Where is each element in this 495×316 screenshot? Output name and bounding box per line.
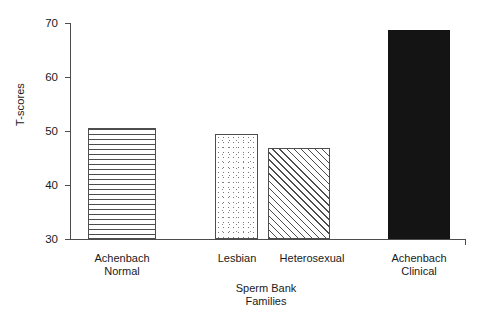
bar-achenbach-clinical [388,30,450,239]
y-axis-line [70,23,71,240]
y-tick-label-60: 60 [32,72,58,84]
x-category-label-achenbach-clinical: AchenbachClinical [371,252,467,278]
bar-heterosexual [268,148,330,239]
y-axis-title: T-scores [14,36,26,126]
y-tick-label-40: 40 [32,180,58,192]
x-category-label-achenbach-normal: AchenbachNormal [74,252,170,278]
x-category-label-line2: Clinical [401,265,436,277]
x-category-label-line1: Lesbian [218,252,257,264]
bar-achenbach-normal [88,128,156,239]
x-category-label-line1: Heterosexual [280,252,345,264]
x-category-label-heterosexual: Heterosexual [262,252,362,265]
bar-lesbian [215,134,258,239]
x-category-label-line1: Achenbach [94,252,149,264]
y-tick-mark-60 [65,77,70,78]
x-category-label-line2: Normal [104,265,139,277]
y-tick-label-30: 30 [32,234,58,246]
x-axis-end-cap [465,239,466,245]
bar-chart-figure: T-scores 70 60 50 40 30 AchenbachNormal … [0,0,495,316]
x-axis-title-line2: Families [246,295,287,307]
x-axis-title-line1: Sperm Bank [236,282,297,294]
y-tick-label-50: 50 [32,126,58,138]
y-tick-mark-50 [65,131,70,132]
y-tick-label-70: 70 [32,18,58,30]
y-tick-mark-70 [65,23,70,24]
x-axis-title: Sperm BankFamilies [206,282,326,308]
y-tick-mark-40 [65,185,70,186]
x-axis-line [70,239,466,240]
x-category-label-line1: Achenbach [391,252,446,264]
y-axis-tick-labels: 70 60 50 40 30 [32,0,58,316]
